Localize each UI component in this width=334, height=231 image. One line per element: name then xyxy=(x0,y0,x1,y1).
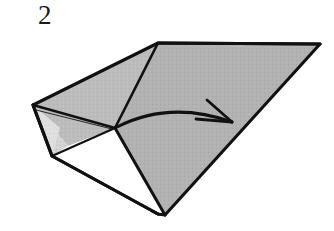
origami-drawing xyxy=(0,0,334,231)
origami-figure: 2 xyxy=(0,0,334,231)
edge-top-ridge xyxy=(158,43,320,44)
